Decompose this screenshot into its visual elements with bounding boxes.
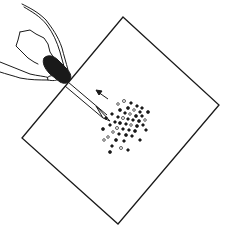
drop xyxy=(125,134,128,137)
drop xyxy=(109,151,112,154)
drop xyxy=(105,117,108,120)
drop xyxy=(135,115,138,118)
drop xyxy=(130,124,133,127)
drop xyxy=(111,145,114,148)
drop xyxy=(114,121,117,124)
drop xyxy=(128,129,131,132)
drop xyxy=(112,131,115,134)
drop xyxy=(136,125,139,128)
drop xyxy=(129,113,132,116)
drop xyxy=(136,105,139,108)
drop xyxy=(117,103,120,106)
drop xyxy=(122,117,125,120)
drop xyxy=(133,109,136,112)
drop xyxy=(147,111,150,114)
drop xyxy=(144,119,147,122)
drop xyxy=(139,139,142,142)
drop xyxy=(127,107,130,110)
drop xyxy=(109,124,112,127)
drop xyxy=(124,112,127,115)
drop xyxy=(117,116,120,119)
drop xyxy=(102,128,105,131)
drop xyxy=(138,120,141,123)
drop xyxy=(119,109,122,112)
illustration xyxy=(0,0,226,232)
drop xyxy=(118,133,121,136)
drop xyxy=(116,127,119,130)
drop xyxy=(123,100,126,103)
drop xyxy=(132,119,135,122)
drop xyxy=(115,139,118,142)
drop xyxy=(127,149,130,152)
drop xyxy=(107,136,110,139)
drop xyxy=(134,130,137,133)
drop xyxy=(131,135,134,138)
drop xyxy=(125,123,128,126)
drop xyxy=(141,115,144,118)
drop xyxy=(130,102,133,105)
drop xyxy=(142,124,145,127)
drop xyxy=(119,122,122,125)
drop xyxy=(122,128,125,131)
drop xyxy=(141,107,144,110)
drop xyxy=(111,113,114,116)
drop xyxy=(127,118,130,121)
drop xyxy=(123,140,126,143)
drop xyxy=(120,147,123,150)
drop xyxy=(139,111,142,114)
drop xyxy=(145,129,148,132)
drop xyxy=(103,139,106,142)
pipette-bulb xyxy=(43,56,71,83)
